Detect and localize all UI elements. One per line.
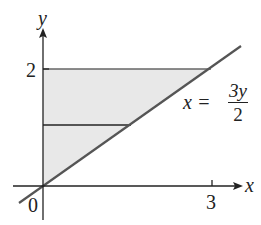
origin-label: 0: [28, 195, 38, 215]
equation-denominator: 2: [233, 105, 243, 124]
y-axis-label: y: [38, 8, 47, 28]
diagram-canvas: [0, 0, 261, 225]
x-tick-label: 3: [206, 192, 216, 212]
equation-lhs: x =: [183, 92, 210, 112]
x-axis-label: x: [245, 175, 254, 195]
y-tick-label: 2: [26, 60, 36, 80]
equation-numerator: 3y: [229, 81, 247, 100]
fraction-bar: [228, 102, 248, 103]
equation-fraction: 3y 2: [228, 81, 248, 124]
